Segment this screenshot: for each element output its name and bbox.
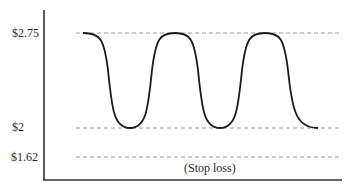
y-label-low: $1.62 [11, 150, 38, 164]
y-label-mid: $2 [12, 120, 24, 134]
price-curve [83, 33, 318, 128]
y-label-high: $2.75 [12, 26, 39, 40]
price-chart: $2.75 $2 $1.62 (Stop loss) [0, 0, 355, 196]
stop-loss-annotation: (Stop loss) [184, 161, 236, 175]
